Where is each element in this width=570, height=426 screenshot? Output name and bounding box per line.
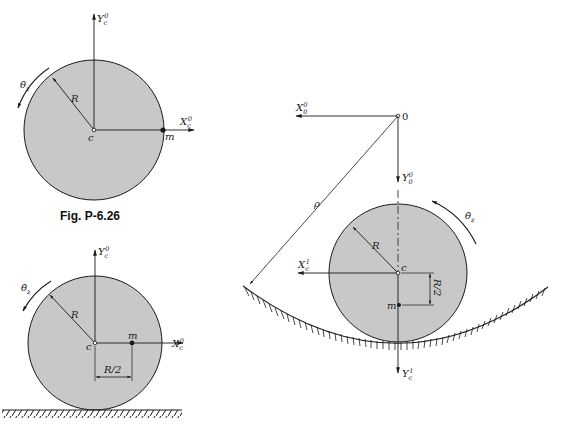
y-axis-label: Yc0 <box>97 12 108 27</box>
mass-label: m <box>165 131 174 142</box>
mass-label: m <box>128 330 137 341</box>
figure-b: R/2 Yc0 Xc0 c m R θ̇z <box>2 245 184 418</box>
rate-label: θ̇z <box>465 210 475 224</box>
center-label: c <box>86 341 92 352</box>
y0-axis-label: Y00 <box>402 171 413 186</box>
center-label: c <box>88 132 94 143</box>
figure-caption: Fig. P-6.26 <box>60 209 120 223</box>
y1-axis-label: Yc1 <box>402 367 413 382</box>
x0-axis-label: X00 <box>295 101 307 116</box>
radius-label: R <box>70 309 79 320</box>
mass-point <box>130 341 135 346</box>
x1-axis-label: Xc1 <box>297 258 310 273</box>
mass-label: m <box>387 300 396 311</box>
radius-label: R <box>371 240 380 251</box>
ground-hatch <box>2 410 182 418</box>
radius-label: R <box>70 93 79 104</box>
diagram-canvas: Yc0 Xc0 c m R θ̇z Fig. P-6.26 R/2 Yc0 Xc… <box>0 0 570 426</box>
figure-c: R/2 0 X00 Y00 Xc1 Yc1 c m R ρ θ̇z <box>243 101 548 382</box>
y-axis-label: Yc0 <box>98 245 109 260</box>
x-axis-label: Xc0 <box>179 115 192 130</box>
offset-label: R/2 <box>103 364 121 375</box>
center-point <box>396 271 400 275</box>
x-axis-label: Xc0 <box>171 337 184 352</box>
origin-label: 0 <box>402 111 408 122</box>
rate-label: θ̇z <box>21 282 31 296</box>
rate-label: θ̇z <box>20 79 30 93</box>
center-label: c <box>401 262 407 273</box>
mass-point <box>397 303 401 307</box>
offset-label: R/2 <box>432 278 443 296</box>
center-point <box>93 341 97 345</box>
figure-a: Yc0 Xc0 c m R θ̇z <box>18 12 194 200</box>
track-radius-label: ρ <box>313 198 320 209</box>
